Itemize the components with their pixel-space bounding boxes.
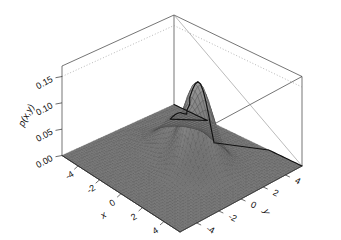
y-tick-2 — [241, 199, 246, 201]
z-tick-2 — [56, 103, 63, 104]
x-tick-label-0: -4 — [63, 169, 75, 182]
z-tick-label-0: 0.15 — [34, 74, 54, 91]
y-tick-3 — [219, 211, 224, 213]
x-tick-3 — [139, 208, 143, 211]
plot-canvas: 0.15 0.10 0.05 0.00 p(x,y) -4 -2 0 2 4 x… — [0, 0, 341, 240]
y-tick-0 — [285, 175, 290, 177]
z-tick-1 — [56, 129, 63, 130]
y-tick-label-2: 0 — [249, 199, 258, 210]
z-axis-title: p(x,y) — [15, 102, 36, 129]
y-tick-label-4: -4 — [205, 223, 217, 236]
x-tick-4 — [160, 222, 164, 225]
z-tick-label-3: 0.00 — [34, 153, 54, 170]
surface-plot-figure: 0.15 0.10 0.05 0.00 p(x,y) -4 -2 0 2 4 x… — [0, 0, 341, 240]
y-axis-title: y — [261, 206, 274, 217]
y-tick-label-1: 2 — [271, 187, 280, 198]
x-axis-title: x — [97, 208, 109, 221]
z-tick-label-1: 0.10 — [34, 100, 54, 117]
box-top-left-edge — [62, 15, 174, 66]
z-tick-3 — [56, 77, 63, 78]
gridline-z-0.15-back — [174, 26, 302, 88]
x-tick-1 — [96, 180, 100, 183]
y-tick-1 — [263, 187, 268, 189]
x-tick-label-1: -2 — [85, 183, 97, 196]
x-tick-2 — [117, 194, 121, 197]
x-tick-0 — [74, 166, 78, 169]
y-tick-label-3: -2 — [227, 211, 239, 224]
z-axis-tick-labels: 0.15 0.10 0.05 0.00 — [34, 74, 54, 170]
y-tick-4 — [197, 223, 202, 225]
axis-gridlines-dotted — [62, 26, 302, 88]
z-tick-label-2: 0.05 — [34, 127, 54, 144]
x-tick-label-4: 4 — [151, 225, 161, 236]
x-tick-label-2: 0 — [108, 197, 118, 208]
y-tick-label-0: 4 — [293, 175, 302, 186]
gridline-z-0.15-left — [62, 26, 174, 77]
x-tick-label-3: 2 — [129, 211, 139, 222]
z-tick-0 — [56, 156, 63, 157]
box-top-back-edge — [174, 15, 302, 77]
